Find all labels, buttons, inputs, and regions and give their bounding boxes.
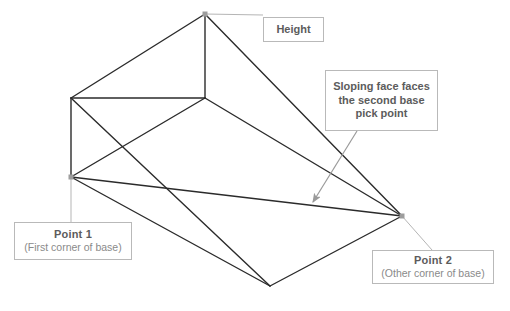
callout-height: Height [263,17,324,42]
edge-apex-to-lefttop [71,14,205,98]
callout-height-label: Height [276,23,310,37]
callout-point-2-subtitle: (Other corner of base) [381,267,484,280]
point1-vertex-marker [69,175,74,180]
edge-point1-to-point2 [71,177,402,216]
callout-sloping-line-2: the second base [338,94,424,108]
wedge-diagram-canvas: Height Sloping face faces the second bas… [0,0,510,311]
point2-vertex-marker [400,214,405,219]
apex-vertex-marker [203,12,208,17]
edge-point1-to-ridge [71,98,205,177]
callout-sloping-face: Sloping face faces the second base pick … [325,70,438,131]
callout-point-1-subtitle: (First corner of base) [24,241,121,254]
leader-lines [71,14,432,250]
callout-point-2-title: Point 2 [414,254,452,268]
callout-sloping-line-1: Sloping face faces [333,80,430,94]
point2-leader-line [402,216,432,250]
callout-point-1: Point 1 (First corner of base) [14,222,132,260]
height-leader-line [205,14,263,15]
callout-sloping-line-3: pick point [356,107,408,121]
callout-point-2: Point 2 (Other corner of base) [372,250,494,284]
callout-point-1-title: Point 1 [54,228,92,242]
